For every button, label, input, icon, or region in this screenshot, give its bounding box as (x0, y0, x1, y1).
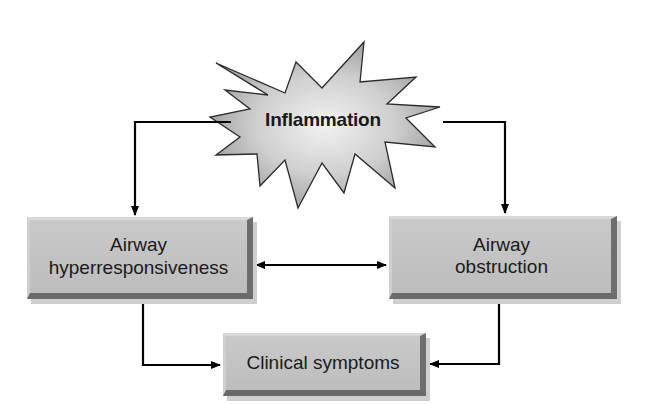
inflammation-label: Inflammation (238, 109, 408, 131)
arrow-hyperresponsiveness-to-symptoms (143, 303, 220, 365)
obstruction-line1: Airway (455, 234, 548, 256)
obstruction-line2: obstruction (455, 256, 548, 278)
hyperresponsiveness-box: Airway hyperresponsiveness (27, 217, 253, 299)
hyperresponsiveness-line1: Airway (49, 234, 229, 256)
hyperresponsiveness-line2: hyperresponsiveness (49, 257, 229, 279)
clinical-symptoms-box: Clinical symptoms (223, 333, 426, 396)
arrow-obstruction-to-symptoms (430, 303, 499, 364)
arrow-inflammation-to-hyperresponsiveness (135, 122, 231, 215)
arrow-inflammation-to-obstruction (443, 122, 505, 213)
clinical-symptoms-label: Clinical symptoms (246, 352, 399, 374)
obstruction-box: Airway obstruction (389, 216, 617, 299)
